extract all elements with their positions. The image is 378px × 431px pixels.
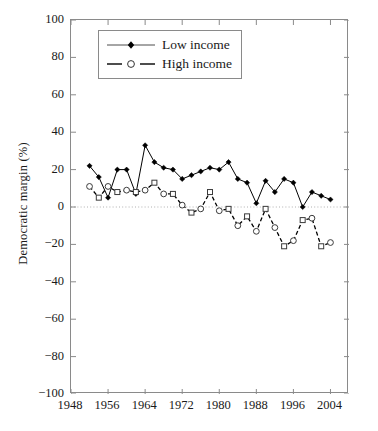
- legend-item-low-income: Low income: [105, 35, 232, 54]
- data-point: [189, 173, 194, 178]
- data-point: [244, 180, 249, 185]
- data-point: [124, 167, 129, 172]
- data-point: [142, 187, 148, 193]
- data-point: [208, 190, 213, 195]
- data-point: [124, 187, 130, 193]
- data-point: [235, 223, 241, 229]
- data-point: [161, 165, 166, 170]
- data-point: [115, 167, 120, 172]
- data-point: [263, 206, 268, 211]
- data-point: [319, 193, 324, 198]
- data-point: [300, 204, 305, 209]
- data-point: [253, 228, 259, 234]
- data-point: [96, 195, 101, 200]
- legend-swatch-high-income: [105, 57, 157, 71]
- data-point: [143, 143, 148, 148]
- data-point: [282, 244, 287, 249]
- data-point: [319, 244, 324, 249]
- data-point: [179, 202, 185, 208]
- data-point: [272, 225, 278, 231]
- data-point: [245, 214, 250, 219]
- data-point: [226, 206, 231, 211]
- data-point: [170, 191, 175, 196]
- data-point: [105, 195, 110, 200]
- data-point: [133, 190, 138, 195]
- chart-figure: Democratic margin (%) 100806040200−20−40…: [0, 0, 378, 431]
- data-point: [291, 180, 296, 185]
- data-point: [207, 165, 212, 170]
- data-point: [300, 218, 305, 223]
- x-tick-label: 2004: [306, 399, 352, 412]
- data-point: [328, 240, 334, 246]
- data-point: [161, 191, 167, 197]
- data-point: [198, 169, 203, 174]
- data-point: [328, 197, 333, 202]
- legend-label-high-income: High income: [162, 57, 232, 71]
- data-point: [152, 180, 157, 185]
- data-point: [309, 215, 315, 221]
- series-low-income: [87, 143, 333, 210]
- chart-legend: Low income High income: [98, 30, 242, 79]
- data-point: [189, 210, 194, 215]
- data-point: [105, 184, 111, 190]
- data-point: [216, 208, 222, 214]
- data-point: [87, 184, 93, 190]
- legend-label-low-income: Low income: [162, 38, 230, 52]
- data-point: [198, 206, 204, 212]
- data-point: [309, 189, 314, 194]
- data-point: [291, 238, 297, 244]
- data-point: [254, 201, 259, 206]
- legend-swatch-low-income: [105, 38, 157, 52]
- data-point: [235, 176, 240, 181]
- data-point: [152, 160, 157, 165]
- data-point: [115, 190, 120, 195]
- legend-item-high-income: High income: [105, 54, 232, 73]
